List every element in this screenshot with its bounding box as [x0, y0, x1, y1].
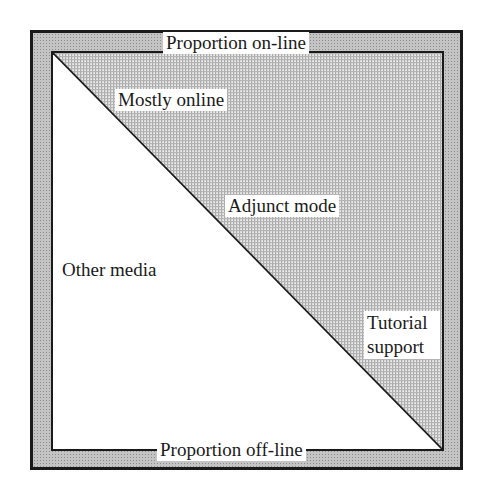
- bottom-axis-label: Proportion off-line: [157, 439, 306, 461]
- region-label-tutorial-support: Tutorial support: [364, 311, 440, 359]
- region-label-mostly-online: Mostly online: [115, 89, 227, 111]
- region-label-other-media: Other media: [59, 259, 159, 281]
- tutorial-label-line2: support: [367, 335, 437, 359]
- diagonal-split: [53, 53, 442, 449]
- top-axis-label: Proportion on-line: [163, 32, 309, 54]
- region-label-adjunct-mode: Adjunct mode: [225, 195, 339, 217]
- inner-square: [51, 51, 444, 451]
- tutorial-label-line1: Tutorial: [367, 311, 437, 335]
